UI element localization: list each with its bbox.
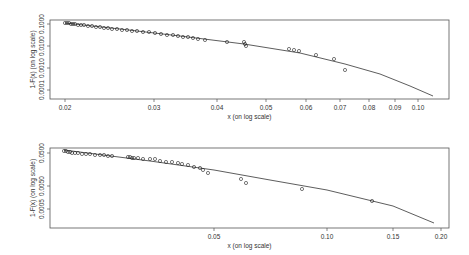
bottom-chart-panel: 0.050.100.150.200.05000.00500.0005x (on … [29,143,449,250]
fitted-curve [65,23,433,96]
data-point [181,35,184,38]
data-point [201,168,204,171]
y-tick-label: 0.0005 [38,199,45,219]
data-point [314,53,317,56]
x-tick-label: 0.08 [363,104,376,111]
fitted-curve [64,150,434,223]
x-tick-label: 0.06 [300,104,313,111]
x-tick-label: 0.02 [59,104,72,111]
data-point [244,181,247,184]
y-tick-label: 0.0500 [38,143,45,163]
data-point [170,160,173,163]
data-point [206,171,209,174]
plot-frame [50,20,449,99]
data-point [94,25,97,28]
data-point [287,47,290,50]
data-point [153,157,156,160]
x-tick-label: 0.05 [208,233,221,240]
chart-canvas: 0.020.030.040.050.060.070.080.090.100.10… [0,0,469,255]
y-axis-title: 1-F(x) (on log scale) [29,159,37,217]
top-chart-panel: 0.020.030.040.050.060.070.080.090.100.10… [29,14,449,121]
y-axis-title: 1-F(x) (on log scale) [29,30,37,88]
x-tick-label: 0.03 [148,104,161,111]
data-point [148,157,151,160]
data-point [80,152,83,155]
data-point [343,68,346,71]
x-tick-label: 0.10 [412,104,425,111]
data-point [292,48,295,51]
data-point [130,29,133,32]
x-tick-label: 0.09 [389,104,402,111]
x-tick-label: 0.05 [260,104,273,111]
x-tick-label: 0.20 [435,233,448,240]
y-tick-label: 0.0050 [38,176,45,196]
y-tick-label: 0.1000 [38,14,45,34]
x-tick-label: 0.10 [321,233,334,240]
data-point [300,187,303,190]
x-axis-title: x (on log scale) [227,242,271,250]
data-point [332,57,335,60]
data-point [297,49,300,52]
y-tick-label: 0.0010 [38,58,45,78]
x-tick-label: 0.04 [211,104,224,111]
data-point [176,161,179,164]
y-tick-label: 0.0001 [38,80,45,100]
x-tick-label: 0.07 [334,104,347,111]
x-tick-label: 0.15 [387,233,400,240]
plot-frame [50,148,449,228]
data-point [88,152,91,155]
x-axis-title: x (on log scale) [227,113,271,121]
data-point [239,177,242,180]
y-tick-label: 0.0100 [38,36,45,56]
